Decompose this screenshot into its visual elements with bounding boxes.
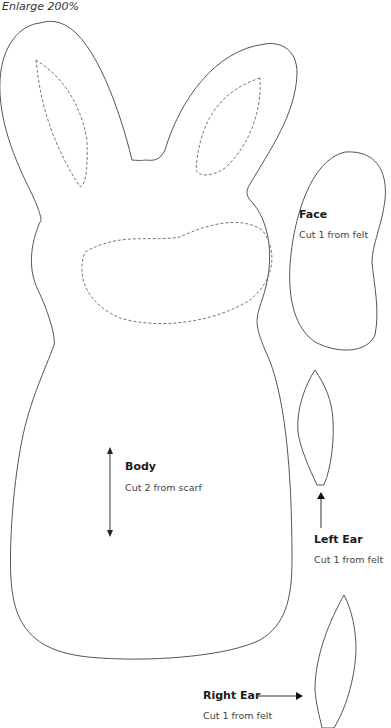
arrow-up-icon: [317, 492, 325, 528]
pattern-sheet: [0, 0, 391, 728]
face-piece-outline: [290, 152, 386, 350]
left-ear-piece-outline: [298, 370, 334, 485]
body-title: Body: [125, 460, 156, 473]
right-ear-piece-outline: [315, 595, 356, 728]
face-placement-stitch: [82, 222, 272, 323]
right-inner-ear-stitch: [196, 78, 260, 175]
face-instruction: Cut 1 from felt: [299, 229, 368, 240]
grainline-arrow-icon: [107, 447, 113, 537]
left-ear-instruction: Cut 1 from felt: [314, 554, 383, 565]
body-instruction: Cut 2 from scarf: [125, 482, 202, 493]
arrow-right-icon: [258, 692, 303, 700]
right-ear-instruction: Cut 1 from felt: [203, 710, 272, 721]
right-ear-title: Right Ear: [203, 689, 260, 702]
body-outline: [0, 21, 297, 659]
face-title: Face: [299, 208, 327, 221]
left-ear-title: Left Ear: [314, 533, 363, 546]
left-inner-ear-stitch: [36, 60, 87, 187]
